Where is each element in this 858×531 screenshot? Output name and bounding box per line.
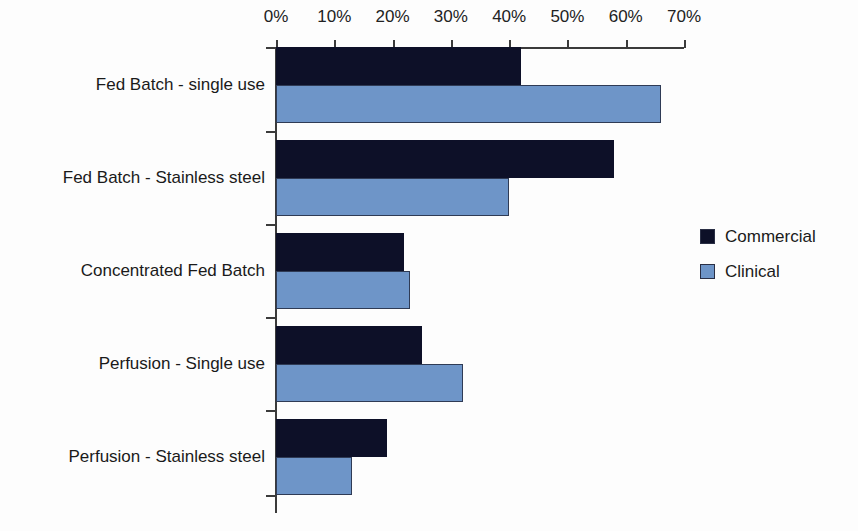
legend-swatch-clinical	[700, 264, 715, 279]
y-axis-cap-top	[266, 47, 276, 49]
legend-label: Commercial	[725, 228, 816, 245]
bar-commercial	[276, 47, 521, 85]
bar-clinical	[276, 364, 463, 402]
x-tick-label: 10%	[317, 8, 351, 25]
x-tick-label: 50%	[550, 8, 584, 25]
bar-commercial	[276, 140, 614, 178]
bar-group	[276, 326, 696, 402]
x-tick-label: 0%	[264, 8, 289, 25]
category-label: Concentrated Fed Batch	[5, 261, 265, 281]
bar-commercial	[276, 326, 422, 364]
legend-item-clinical: Clinical	[700, 263, 816, 280]
bar-group	[276, 47, 696, 123]
bar-group	[276, 419, 696, 495]
x-axis-labels: 0% 10% 20% 30% 40% 50% 60% 70%	[276, 0, 696, 48]
plot-area	[276, 47, 696, 513]
bar-clinical	[276, 457, 352, 495]
bar-group	[276, 140, 696, 216]
legend-label: Clinical	[725, 263, 780, 280]
x-tick-label: 40%	[492, 8, 526, 25]
category-label: Fed Batch - single use	[5, 75, 265, 95]
y-tick-mark	[266, 410, 276, 412]
category-label: Perfusion - Stainless steel	[5, 447, 265, 467]
bar-commercial	[276, 233, 404, 271]
legend-swatch-commercial	[700, 229, 715, 244]
category-label: Perfusion - Single use	[5, 354, 265, 374]
y-tick-mark	[266, 131, 276, 133]
legend-item-commercial: Commercial	[700, 228, 816, 245]
category-label: Fed Batch - Stainless steel	[5, 168, 265, 188]
x-tick-label: 60%	[609, 8, 643, 25]
bar-commercial	[276, 419, 387, 457]
legend: Commercial Clinical	[700, 228, 816, 298]
y-tick-mark	[266, 224, 276, 226]
x-tick-label: 30%	[434, 8, 468, 25]
bar-clinical	[276, 271, 410, 309]
bar-clinical	[276, 178, 509, 216]
bar-group	[276, 233, 696, 309]
y-axis-cap-bottom	[266, 495, 276, 497]
x-tick-label: 20%	[376, 8, 410, 25]
x-tick-label: 70%	[667, 8, 701, 25]
bar-chart: 0% 10% 20% 30% 40% 50% 60% 70% Fed Batch…	[0, 0, 858, 531]
bar-clinical	[276, 85, 661, 123]
y-tick-mark	[266, 317, 276, 319]
